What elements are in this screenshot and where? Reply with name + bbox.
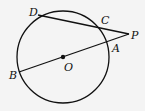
label-b: B [8, 69, 17, 82]
label-d: D [28, 6, 38, 19]
label-o: O [64, 61, 73, 74]
center-point [61, 55, 65, 59]
label-a: A [111, 42, 120, 55]
geometry-diagram: D C P A B O [0, 0, 145, 111]
label-p: P [130, 29, 139, 42]
secant-dp [38, 15, 129, 34]
label-c: C [101, 14, 110, 27]
